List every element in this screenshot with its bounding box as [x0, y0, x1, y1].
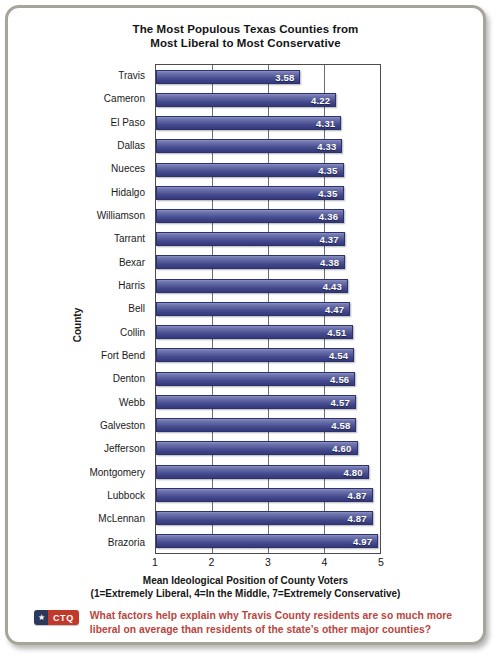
category-label: Travis [68, 64, 150, 87]
bar-value-label: 4.60 [332, 443, 351, 454]
chart-title: The Most Populous Texas Counties from Mo… [8, 22, 483, 50]
bar: 4.47 [156, 302, 350, 316]
bar-value-label: 4.87 [347, 489, 366, 500]
bar: 3.58 [156, 70, 300, 84]
bar-row: 3.58 [156, 65, 380, 88]
bar-value-label: 4.35 [318, 164, 337, 175]
bar-row: 4.60 [156, 437, 380, 460]
category-label: Montgomery [68, 461, 150, 484]
bar-row: 4.31 [156, 111, 380, 134]
ctq-badge-label: CTQ [53, 613, 74, 623]
x-tick-label: 4 [322, 556, 328, 568]
bar: 4.57 [156, 395, 356, 409]
bar-row: 4.47 [156, 297, 380, 320]
bar-value-label: 4.56 [330, 373, 349, 384]
bar-row: 4.35 [156, 181, 380, 204]
plot-wrapper: 3.584.224.314.334.354.354.364.374.384.43… [155, 64, 381, 554]
category-label: Williamson [68, 204, 150, 227]
bar: 4.87 [156, 511, 373, 525]
bar: 4.97 [156, 534, 378, 548]
bar-value-label: 4.36 [319, 211, 338, 222]
bar: 4.37 [156, 232, 345, 246]
x-axis-ticks: 12345 [155, 556, 381, 572]
category-label: Dallas [68, 134, 150, 157]
x-tick-label: 5 [378, 556, 384, 568]
category-label: El Paso [68, 111, 150, 134]
category-label: Denton [68, 367, 150, 390]
category-label: Fort Bend [68, 344, 150, 367]
bar: 4.51 [156, 325, 353, 339]
bar: 4.35 [156, 163, 344, 177]
chart-title-line-2: Most Liberal to Most Conservative [8, 36, 483, 50]
category-label: Cameron [68, 87, 150, 110]
bar-row: 4.37 [156, 228, 380, 251]
bar: 4.31 [156, 116, 341, 130]
category-label: Collin [68, 321, 150, 344]
category-label: Bexar [68, 251, 150, 274]
category-label: Brazoria [68, 531, 150, 554]
bar-value-label: 4.87 [347, 513, 366, 524]
ctq-badge: ★ CTQ [34, 610, 79, 625]
bar-row: 4.35 [156, 158, 380, 181]
category-label: Bell [68, 297, 150, 320]
ctq-text-box: CTQ [48, 610, 79, 625]
bar-row: 4.33 [156, 135, 380, 158]
star-icon: ★ [38, 614, 45, 622]
category-label: McLennan [68, 507, 150, 530]
bar-row: 4.22 [156, 88, 380, 111]
bar: 4.36 [156, 209, 344, 223]
bar-value-label: 4.54 [329, 350, 348, 361]
bar-value-label: 4.33 [317, 141, 336, 152]
bar: 4.56 [156, 372, 355, 386]
bar-value-label: 4.97 [353, 536, 372, 547]
bar: 4.87 [156, 488, 373, 502]
bar-row: 4.54 [156, 344, 380, 367]
bar-row: 4.56 [156, 367, 380, 390]
bar-value-label: 4.37 [319, 234, 338, 245]
bar-row: 4.87 [156, 483, 380, 506]
bar: 4.35 [156, 186, 344, 200]
bar: 4.38 [156, 255, 345, 269]
bar: 4.60 [156, 441, 358, 455]
chart-title-line-1: The Most Populous Texas Counties from [133, 23, 359, 35]
bar-value-label: 4.22 [311, 94, 330, 105]
bar-value-label: 4.51 [327, 327, 346, 338]
bar-value-label: 4.31 [316, 118, 335, 129]
ctq-question-text: What factors help explain why Travis Cou… [90, 609, 479, 636]
category-label: Lubbock [68, 484, 150, 507]
category-label: Harris [68, 274, 150, 297]
bar-row: 4.38 [156, 251, 380, 274]
bar-row: 4.58 [156, 414, 380, 437]
bar-value-label: 4.35 [318, 187, 337, 198]
bar: 4.54 [156, 348, 354, 362]
category-label: Galveston [68, 414, 150, 437]
bar: 4.22 [156, 93, 336, 107]
category-label: Webb [68, 391, 150, 414]
bar: 4.43 [156, 279, 348, 293]
bar-rows: 3.584.224.314.334.354.354.364.374.384.43… [156, 65, 380, 553]
bar-value-label: 4.58 [331, 420, 350, 431]
ctq-star-box: ★ [34, 610, 48, 625]
bar-row: 4.36 [156, 204, 380, 227]
bar-row: 4.51 [156, 321, 380, 344]
bar: 4.33 [156, 139, 342, 153]
bar-value-label: 4.57 [331, 396, 350, 407]
bar-value-label: 3.58 [275, 71, 294, 82]
plot-area: 3.584.224.314.334.354.354.364.374.384.43… [155, 64, 381, 554]
x-tick-label: 3 [265, 556, 271, 568]
bar-value-label: 4.43 [323, 280, 342, 291]
bar-row: 4.87 [156, 506, 380, 529]
x-tick-label: 1 [152, 556, 158, 568]
x-tick-label: 2 [209, 556, 215, 568]
x-axis-title: Mean Ideological Position of County Vote… [8, 574, 483, 587]
bar: 4.58 [156, 418, 356, 432]
bar-row: 4.43 [156, 274, 380, 297]
bar-value-label: 4.80 [344, 466, 363, 477]
category-axis-labels: TravisCameronEl PasoDallasNuecesHidalgoW… [68, 64, 150, 554]
bar-row: 4.57 [156, 390, 380, 413]
category-label: Tarrant [68, 227, 150, 250]
category-label: Hidalgo [68, 181, 150, 204]
ctq-footer: ★ CTQ What factors help explain why Trav… [34, 609, 479, 636]
figure-frame: The Most Populous Texas Counties from Mo… [5, 5, 486, 645]
bar-row: 4.97 [156, 530, 380, 553]
